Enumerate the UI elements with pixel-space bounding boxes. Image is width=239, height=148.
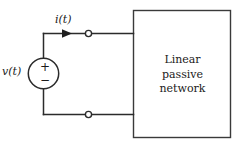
polarity-plus-sign: + [40, 61, 50, 73]
terminal-node-bottom [85, 111, 91, 117]
network-box-caption: Linear passive network [134, 11, 231, 138]
network-caption-line-3: network [160, 82, 206, 96]
network-caption-line-1: Linear [164, 53, 200, 67]
polarity-minus-sign: − [40, 74, 50, 86]
voltage-source-label: v(t) [2, 66, 21, 77]
terminal-node-top [85, 30, 91, 36]
circuit-diagram-figure: + − v(t) i(t) Linear passive network [0, 0, 239, 148]
network-caption-line-2: passive [162, 68, 203, 82]
current-arrow-icon [62, 29, 72, 38]
current-label: i(t) [55, 14, 72, 25]
